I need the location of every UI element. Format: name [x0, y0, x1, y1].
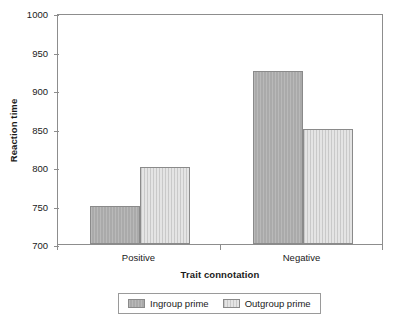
y-axis-tick-label: 1000 [0, 9, 53, 20]
x-axis-ticks [57, 245, 383, 251]
bar [303, 129, 353, 244]
x-axis-category-label: Negative [283, 252, 321, 263]
legend-entry-label: Outgroup prime [245, 298, 311, 309]
y-axis-tick-mark [54, 208, 59, 209]
y-axis-tick-label: 750 [0, 201, 53, 212]
x-axis-category-label: Positive [122, 252, 155, 263]
y-axis-tick-label: 800 [0, 163, 53, 174]
x-axis-category-labels: PositiveNegative [57, 252, 383, 268]
y-axis-tick-label: 950 [0, 47, 53, 58]
y-axis-tick-label: 700 [0, 240, 53, 251]
x-axis-tick-mark [57, 245, 58, 250]
y-axis-tick-mark [54, 92, 59, 93]
legend-entry: Ingroup prime [128, 298, 209, 309]
y-axis-tick-labels: 7007508008509009501000 [0, 0, 53, 329]
y-axis-tick-mark [54, 169, 59, 170]
bar [140, 167, 190, 244]
x-axis-tick-mark [220, 245, 221, 250]
plot-area [57, 14, 383, 245]
plot-inner [58, 15, 382, 244]
legend-entry: Outgroup prime [223, 298, 311, 309]
y-axis-tick-mark [54, 54, 59, 55]
bar-chart-figure: Reaction time 7007508008509009501000 Pos… [0, 0, 398, 329]
y-axis-tick-label: 850 [0, 124, 53, 135]
y-axis-tick-mark [54, 15, 59, 16]
x-axis-tick-mark [382, 245, 383, 250]
y-axis-tick-mark [54, 131, 59, 132]
dark-gray-swatch-icon [128, 299, 145, 308]
light-gray-swatch-icon [223, 299, 240, 308]
x-axis-title: Trait connotation [57, 269, 383, 280]
chart-legend: Ingroup primeOutgroup prime [118, 293, 321, 314]
bar [90, 206, 140, 245]
y-axis-tick-label: 900 [0, 86, 53, 97]
legend-entry-label: Ingroup prime [150, 298, 209, 309]
bar [253, 71, 303, 244]
